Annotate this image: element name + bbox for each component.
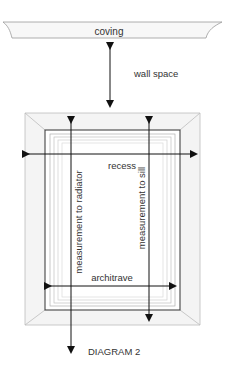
diagram-title: DIAGRAM 2 [88,346,140,357]
diagram-canvas: coving wall space recess architrave meas… [0,0,227,376]
wall-space-label: wall space [133,68,178,79]
coving-label: coving [95,26,124,37]
sill-measurement-label: measurement to sill [136,167,147,249]
recess-label: recess [108,160,136,171]
radiator-measurement-label: measurement to radiator [73,170,84,274]
architrave-label: architrave [91,272,133,283]
window-frame [25,113,200,325]
